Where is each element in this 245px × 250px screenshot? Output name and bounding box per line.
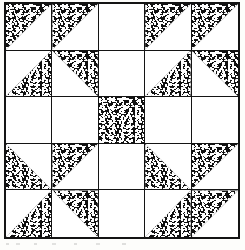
triangle-top-right-icon [52, 190, 97, 237]
quilt-cell-r2-c1 [6, 51, 52, 98]
quilt-cell-r4-c2 [52, 144, 98, 191]
quilt-cell-r2-c5 [192, 51, 238, 98]
quilt-cell-r1-c1 [6, 4, 52, 51]
solid-square-icon [99, 97, 144, 143]
quilt-cell-r4-c1 [6, 144, 52, 191]
quilt-cell-r3-c5 [192, 97, 238, 144]
quilt-block-figure [0, 0, 245, 250]
triangle-bottom-left-icon [145, 144, 190, 190]
quilt-cell-r3-c2 [52, 97, 98, 144]
triangle-top-left-icon [145, 4, 190, 50]
triangle-top-left-icon [192, 4, 238, 50]
quilt-cell-r4-c5 [192, 144, 238, 191]
scan-artifact-marks [0, 240, 245, 250]
triangle-bottom-left-icon [6, 144, 51, 190]
quilt-cell-r4-c3 [99, 144, 145, 191]
quilt-block-border [4, 2, 240, 239]
quilt-cell-r4-c4 [145, 144, 191, 191]
quilt-cell-r2-c2 [52, 51, 98, 98]
quilt-cell-r1-c3 [99, 4, 145, 51]
quilt-grid [6, 4, 238, 237]
quilt-cell-r2-c4 [145, 51, 191, 98]
quilt-cell-r5-c3 [99, 190, 145, 237]
triangle-bottom-right-icon [145, 190, 190, 237]
triangle-top-left-icon [192, 190, 238, 237]
triangle-top-left-icon [6, 4, 51, 50]
quilt-cell-r3-c3 [99, 97, 145, 144]
triangle-bottom-right-icon [6, 51, 51, 97]
quilt-cell-r3-c4 [145, 97, 191, 144]
triangle-top-left-icon [52, 144, 97, 190]
quilt-cell-r5-c2 [52, 190, 98, 237]
quilt-cell-r1-c5 [192, 4, 238, 51]
triangle-top-left-icon [192, 144, 238, 190]
quilt-cell-r1-c4 [145, 4, 191, 51]
quilt-cell-r5-c4 [145, 190, 191, 237]
quilt-cell-r5-c1 [6, 190, 52, 237]
triangle-top-left-icon [52, 4, 97, 50]
triangle-bottom-right-icon [6, 190, 51, 237]
triangle-top-right-icon [192, 51, 238, 97]
quilt-cell-r2-c3 [99, 51, 145, 98]
quilt-cell-r1-c2 [52, 4, 98, 51]
quilt-cell-r5-c5 [192, 190, 238, 237]
quilt-cell-r3-c1 [6, 97, 52, 144]
triangle-bottom-right-icon [145, 51, 190, 97]
triangle-top-right-icon [52, 51, 97, 97]
